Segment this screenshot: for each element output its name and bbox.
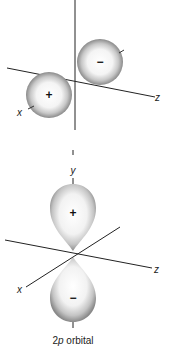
- bottom-y-label: y: [70, 165, 77, 176]
- bottom-positive-sign: +: [69, 206, 76, 220]
- top-positive-sign: +: [45, 88, 52, 102]
- caption-suffix: orbital: [64, 335, 94, 346]
- bottom-negative-sign: −: [69, 291, 76, 305]
- top-orbital: − + x z: [7, 0, 160, 130]
- diagram-caption: 2p orbital: [52, 335, 93, 346]
- bottom-orbital: y + − z x: [5, 150, 159, 328]
- bottom-z-label: z: [153, 264, 159, 275]
- top-z-label: z: [154, 92, 160, 103]
- top-x-label: x: [16, 107, 23, 118]
- orbital-diagram: − + x z y + − z x 2p orbital: [0, 0, 175, 355]
- top-negative-sign: −: [96, 55, 103, 69]
- bottom-x-label: x: [16, 284, 23, 295]
